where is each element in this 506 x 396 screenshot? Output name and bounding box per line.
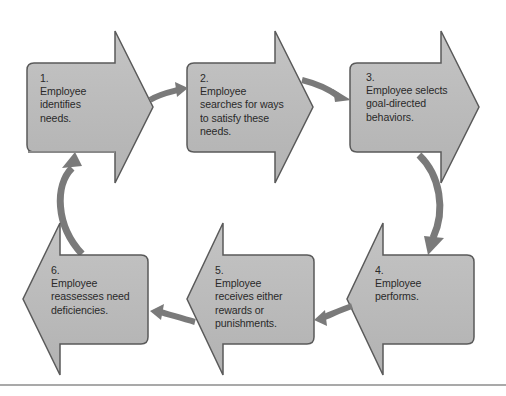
- connector-6-to-1: [60, 152, 82, 254]
- cycle-diagram: [0, 0, 506, 396]
- step-text-line: Employee selects: [366, 84, 447, 97]
- step-text-line: performs.: [375, 290, 421, 303]
- step-text-line: Employee: [215, 277, 282, 290]
- connector-5-to-6: [150, 304, 195, 322]
- step-text-line: punishments.: [215, 317, 282, 330]
- step-text-line: rewards or: [215, 304, 282, 317]
- step-number: 3.: [366, 71, 447, 84]
- step-5-label: 5. Employee receives either rewards or p…: [215, 264, 282, 330]
- step-text-line: goal-directed: [366, 97, 447, 110]
- step-number: 5.: [215, 264, 282, 277]
- step-number: 4.: [375, 264, 421, 277]
- step-text-line: needs.: [200, 125, 284, 138]
- step-text-line: reassesses need: [51, 290, 130, 303]
- step-text-line: behaviors.: [366, 111, 447, 124]
- step-2-label: 2. Employee searches for ways to satisfy…: [200, 72, 284, 138]
- bottom-divider: [0, 384, 506, 386]
- step-1-label: 1. Employee identifies needs.: [40, 72, 86, 125]
- step-4-label: 4. Employee performs.: [375, 264, 421, 304]
- step-text-line: Employee: [200, 85, 284, 98]
- connector-4-to-5: [314, 306, 352, 326]
- step-number: 2.: [200, 72, 284, 85]
- step-number: 6.: [51, 264, 130, 277]
- step-text-line: Employee: [375, 277, 421, 290]
- step-text-line: Employee: [40, 85, 86, 98]
- step-text-line: Employee: [51, 277, 130, 290]
- step-text-line: to satisfy these: [200, 112, 284, 125]
- step-text-line: receives either: [215, 290, 282, 303]
- step-number: 1.: [40, 72, 86, 85]
- step-text-line: searches for ways: [200, 98, 284, 111]
- step-3-label: 3. Employee selects goal-directed behavi…: [366, 71, 447, 124]
- step-6-label: 6. Employee reassesses need deficiencies…: [51, 264, 130, 317]
- step-text-line: deficiencies.: [51, 304, 130, 317]
- step-text-line: needs.: [40, 112, 86, 125]
- step-text-line: identifies: [40, 98, 86, 111]
- connector-1-to-2: [150, 82, 188, 100]
